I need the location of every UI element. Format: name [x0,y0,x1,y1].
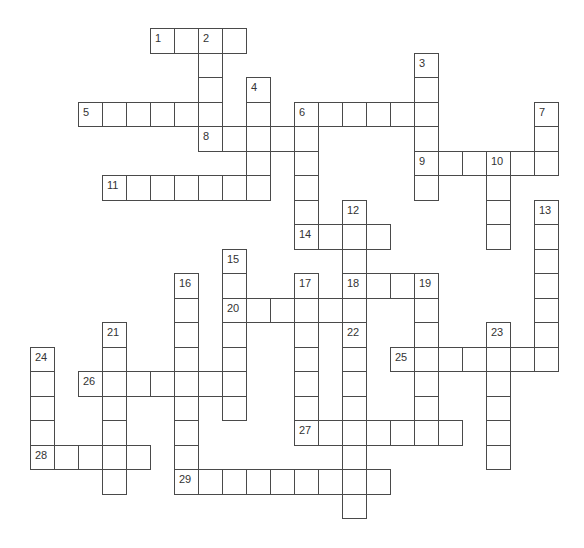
crossword-cell[interactable] [414,77,439,103]
crossword-cell[interactable] [534,126,559,152]
crossword-cell[interactable] [414,102,439,128]
crossword-cell[interactable] [126,175,151,201]
crossword-cell[interactable] [222,469,247,495]
crossword-cell[interactable] [294,200,319,226]
crossword-cell[interactable] [414,322,439,348]
crossword-cell[interactable] [294,396,319,422]
crossword-cell[interactable] [366,224,391,250]
crossword-cell[interactable] [174,102,199,128]
crossword-cell[interactable] [198,102,223,128]
crossword-cell[interactable] [198,77,223,103]
crossword-cell[interactable]: 1 [150,28,175,54]
crossword-cell[interactable] [318,420,343,446]
crossword-cell[interactable] [222,175,247,201]
crossword-cell[interactable] [534,347,559,373]
crossword-cell[interactable]: 28 [30,445,55,471]
crossword-cell[interactable] [222,126,247,152]
crossword-cell[interactable]: 29 [174,469,199,495]
crossword-cell[interactable] [390,420,415,446]
crossword-cell[interactable] [174,371,199,397]
crossword-cell[interactable] [534,298,559,324]
crossword-cell[interactable] [486,200,511,226]
crossword-cell[interactable]: 24 [30,347,55,373]
crossword-cell[interactable] [342,494,367,520]
crossword-cell[interactable] [342,396,367,422]
crossword-cell[interactable] [102,102,127,128]
crossword-cell[interactable] [294,322,319,348]
crossword-cell[interactable] [150,371,175,397]
crossword-cell[interactable] [198,53,223,79]
crossword-cell[interactable]: 11 [102,175,127,201]
crossword-cell[interactable]: 12 [342,200,367,226]
crossword-cell[interactable]: 7 [534,102,559,128]
crossword-cell[interactable] [366,102,391,128]
crossword-cell[interactable] [342,445,367,471]
crossword-cell[interactable]: 10 [486,151,511,177]
crossword-cell[interactable] [390,102,415,128]
crossword-cell[interactable] [342,469,367,495]
crossword-cell[interactable] [294,126,319,152]
crossword-cell[interactable] [222,273,247,299]
crossword-cell[interactable] [486,371,511,397]
crossword-cell[interactable] [414,298,439,324]
crossword-cell[interactable] [174,420,199,446]
crossword-cell[interactable] [174,396,199,422]
crossword-cell[interactable] [294,469,319,495]
crossword-cell[interactable] [150,102,175,128]
crossword-cell[interactable] [462,151,487,177]
crossword-cell[interactable] [174,175,199,201]
crossword-cell[interactable] [318,102,343,128]
crossword-cell[interactable] [246,469,271,495]
crossword-cell[interactable] [246,175,271,201]
crossword-cell[interactable] [414,371,439,397]
crossword-cell[interactable] [534,249,559,275]
crossword-cell[interactable] [222,322,247,348]
crossword-cell[interactable]: 3 [414,53,439,79]
crossword-cell[interactable] [318,224,343,250]
crossword-cell[interactable] [54,445,79,471]
crossword-cell[interactable] [30,396,55,422]
crossword-cell[interactable] [318,298,343,324]
crossword-cell[interactable] [102,445,127,471]
crossword-cell[interactable] [102,396,127,422]
crossword-cell[interactable] [174,445,199,471]
crossword-cell[interactable]: 6 [294,102,319,128]
crossword-cell[interactable]: 18 [342,273,367,299]
crossword-cell[interactable] [342,298,367,324]
crossword-cell[interactable] [486,445,511,471]
crossword-cell[interactable] [126,445,151,471]
crossword-cell[interactable]: 14 [294,224,319,250]
crossword-cell[interactable] [438,347,463,373]
crossword-cell[interactable] [102,347,127,373]
crossword-cell[interactable] [414,126,439,152]
crossword-cell[interactable] [486,175,511,201]
crossword-cell[interactable] [390,273,415,299]
crossword-cell[interactable] [438,420,463,446]
crossword-cell[interactable]: 8 [198,126,223,152]
crossword-cell[interactable] [102,371,127,397]
crossword-cell[interactable]: 13 [534,200,559,226]
crossword-cell[interactable]: 19 [414,273,439,299]
crossword-cell[interactable] [222,28,247,54]
crossword-cell[interactable] [510,151,535,177]
crossword-cell[interactable]: 17 [294,273,319,299]
crossword-cell[interactable] [270,298,295,324]
crossword-cell[interactable] [174,347,199,373]
crossword-cell[interactable]: 25 [390,347,415,373]
crossword-cell[interactable]: 15 [222,249,247,275]
crossword-cell[interactable] [246,102,271,128]
crossword-cell[interactable] [294,151,319,177]
crossword-cell[interactable]: 16 [174,273,199,299]
crossword-cell[interactable] [366,420,391,446]
crossword-cell[interactable] [78,445,103,471]
crossword-cell[interactable] [126,102,151,128]
crossword-cell[interactable] [126,371,151,397]
crossword-cell[interactable] [342,347,367,373]
crossword-cell[interactable]: 26 [78,371,103,397]
crossword-cell[interactable] [366,469,391,495]
crossword-cell[interactable] [342,224,367,250]
crossword-cell[interactable] [534,224,559,250]
crossword-cell[interactable]: 22 [342,322,367,348]
crossword-cell[interactable] [294,347,319,373]
crossword-cell[interactable] [30,371,55,397]
